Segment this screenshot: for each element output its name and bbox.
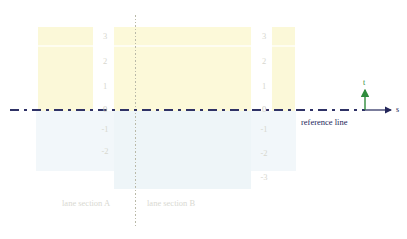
lane-section-diagram: 3 2 1 0 -1 -2 3 2 1 0 -1 -2 -3 lane sect… [0, 0, 407, 239]
t-axis-label: t [363, 78, 365, 87]
axis-arrows [0, 0, 407, 239]
s-axis-label: s [396, 105, 399, 114]
